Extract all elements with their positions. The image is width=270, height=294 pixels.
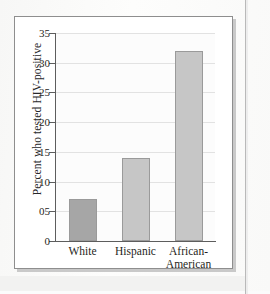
y-axis-tick xyxy=(49,33,56,34)
bar xyxy=(122,158,150,241)
y-axis-tick-label: 35 xyxy=(10,27,50,39)
x-axis-tick-label: African-American xyxy=(162,245,215,271)
y-axis-tick-label: 10 xyxy=(10,176,50,188)
x-axis-tick-label-line: American xyxy=(162,258,215,271)
x-axis-tick-label-line: African- xyxy=(162,245,215,258)
y-axis-tick-label: 05 xyxy=(10,205,50,217)
y-axis-tick xyxy=(49,92,56,93)
y-axis-tick-label: 20 xyxy=(10,116,50,128)
y-axis-tick xyxy=(49,122,56,123)
page-edge-line-secondary xyxy=(246,0,248,294)
gridline xyxy=(56,33,215,34)
y-axis-tick xyxy=(49,182,56,183)
figure-frame: Percent who tested HIV-positive 00510152… xyxy=(14,16,233,269)
x-axis-tick-label: Hispanic xyxy=(109,245,162,258)
y-axis-tick-label: 25 xyxy=(10,86,50,98)
x-axis-line xyxy=(55,241,216,242)
page-bottom-edge xyxy=(0,276,246,291)
y-axis-tick-label: 15 xyxy=(10,146,50,158)
y-axis-tick xyxy=(49,211,56,212)
y-axis-tick-label: 0 xyxy=(10,235,50,247)
y-axis-tick xyxy=(49,63,56,64)
y-axis-tick xyxy=(49,241,56,242)
x-axis-tick-label: White xyxy=(56,245,109,258)
bar-chart: Percent who tested HIV-positive 00510152… xyxy=(15,17,232,268)
x-axis-tick-label-line: Hispanic xyxy=(109,245,162,258)
y-axis-tick-label: 30 xyxy=(10,57,50,69)
bar xyxy=(69,199,97,241)
x-axis-tick-label-line: White xyxy=(56,245,109,258)
bar xyxy=(175,51,203,241)
y-axis-tick xyxy=(49,152,56,153)
